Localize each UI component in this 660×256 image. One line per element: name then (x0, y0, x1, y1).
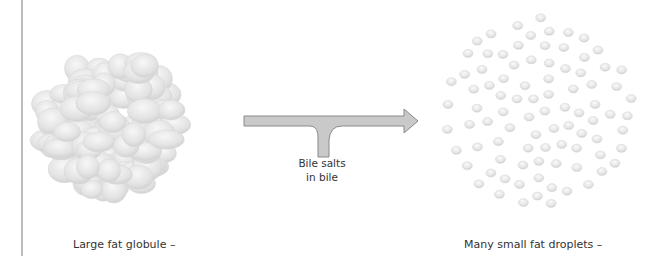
bile-label-line-1: Bile salts (292, 156, 352, 170)
diagram-canvas (0, 0, 660, 256)
bile-salts-label: Bile salts in bile (292, 156, 352, 184)
small-droplets-label: Many small fat droplets – (464, 238, 602, 251)
bile-label-line-2: in bile (292, 170, 352, 184)
small-fat-droplets (442, 14, 636, 208)
arrow-icon (244, 109, 418, 157)
emulsification-arrow (244, 109, 418, 157)
large-fat-globule (30, 53, 191, 204)
large-globule-label: Large fat globule – (73, 238, 175, 251)
